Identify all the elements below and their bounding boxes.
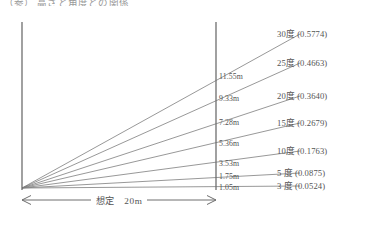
angle-ray xyxy=(22,123,300,188)
height-value-label: 3.53m xyxy=(219,159,239,168)
height-value-label: 9.33m xyxy=(219,94,239,103)
height-value-label: 5.36m xyxy=(219,139,239,148)
ray-group xyxy=(22,34,300,188)
angle-value-label: 20度 (0.3640) xyxy=(277,89,327,101)
angle-value-label: 10度 (0.1763) xyxy=(277,144,327,156)
angle-value-label: 15度 (0.2679) xyxy=(277,116,327,128)
angle-value-label: 30度 (0.5774) xyxy=(277,27,327,39)
height-value-label: 7.28m xyxy=(219,118,239,127)
angle-value-label: 25度 (0.4663) xyxy=(277,56,327,68)
height-value-label: 1.05m xyxy=(219,183,239,192)
angle-ray xyxy=(22,186,300,188)
angle-value-label: 3 度 (0.0524) xyxy=(277,179,325,191)
angle-ray xyxy=(22,173,300,188)
height-value-label: 11.55m xyxy=(219,72,243,81)
height-value-label: 1.75m xyxy=(219,172,239,181)
diagram-canvas: （参） 高さと角度との関係 30度 (0.5774)25度 (0.4663)20… xyxy=(0,0,374,232)
dimension-label-text: 想定 20m xyxy=(91,196,148,206)
angle-ray xyxy=(22,34,300,188)
angle-ray xyxy=(22,96,300,188)
baseline-distance-label: 想定 20m xyxy=(0,193,374,207)
angle-value-label: 5 度 (0.0875) xyxy=(277,166,325,178)
axis-group xyxy=(22,22,216,190)
